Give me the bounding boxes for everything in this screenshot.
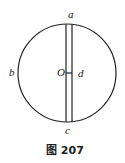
label-c: c [65,124,70,136]
label-o: O [57,66,65,78]
label-b: b [9,66,15,78]
label-d: d [78,67,84,79]
diagram-canvas: a b O d c 图 207 [0,0,125,163]
label-a: a [68,8,74,20]
figure-caption: 图 207 [46,144,84,157]
